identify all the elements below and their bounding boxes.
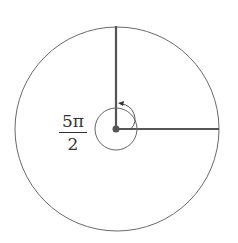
angle-numerator: 5π bbox=[58, 113, 88, 132]
angle-denominator: 2 bbox=[58, 133, 88, 153]
arrowhead-icon bbox=[118, 101, 124, 106]
vertex-point bbox=[113, 126, 120, 133]
angle-label: 5π 2 bbox=[58, 113, 88, 153]
angle-diagram bbox=[0, 0, 238, 243]
